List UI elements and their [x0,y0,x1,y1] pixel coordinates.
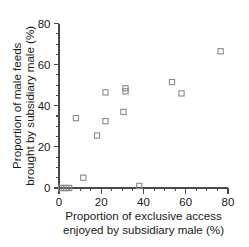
data-point-marker [94,133,99,138]
x-axis-title-line1: Proportion of exclusive access [65,209,222,222]
y-tick-label: 40 [38,100,51,112]
data-point-marker [218,49,223,54]
y-tick-label: 80 [38,18,51,30]
x-tick-label: 0 [56,196,62,208]
scatter-plot-figure: 020406080020406080Proportion of exclusiv… [0,0,249,247]
axis-spines [59,24,228,189]
data-point-marker [103,90,108,95]
x-tick-label: 40 [137,196,150,208]
y-tick-label: 20 [38,141,51,153]
data-point-marker [73,115,78,120]
data-point-marker [169,80,174,85]
data-point-marker [81,175,86,180]
x-tick-label: 80 [222,196,235,208]
y-axis-title-line2: brought by subsidiary male (%) [23,26,36,186]
data-point-marker [103,119,108,124]
data-point-marker [179,91,184,96]
x-tick-label: 60 [179,196,192,208]
plot-canvas: 020406080020406080Proportion of exclusiv… [0,0,249,247]
data-point-marker [121,109,126,114]
x-axis-title-line2: enjoyed by subsidiary male (%) [63,223,224,236]
y-tick-label: 60 [38,59,51,71]
y-axis-title-line1: Proportion of male feeds [10,42,23,169]
y-tick-label: 0 [44,182,50,194]
x-tick-label: 20 [95,196,108,208]
